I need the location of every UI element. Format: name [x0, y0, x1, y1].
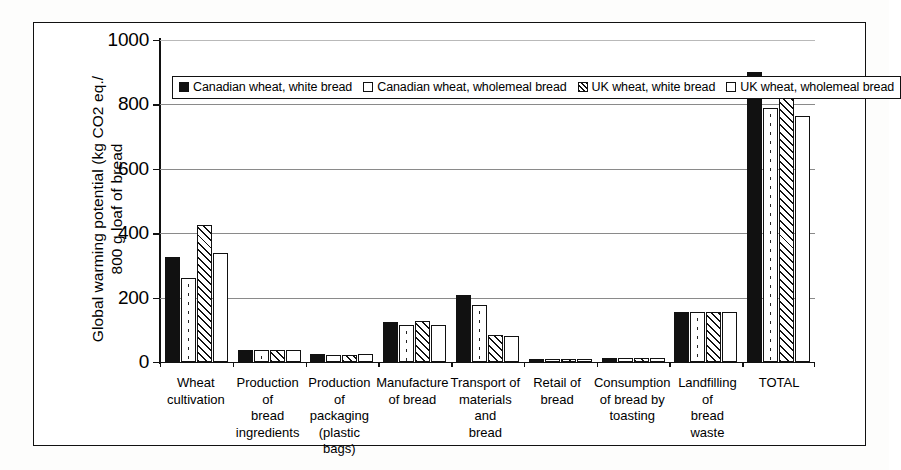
- bar[interactable]: [383, 322, 398, 362]
- x-axis-label: Wheatcultivation: [160, 375, 232, 458]
- x-axis-label-line: Transport of: [450, 375, 520, 392]
- bar[interactable]: [674, 312, 689, 362]
- x-tick-mark: [306, 362, 307, 367]
- bar[interactable]: [529, 359, 544, 362]
- y-tick-label-1000: 1000: [108, 29, 149, 51]
- x-axis-label: Landfilling ofbread waste: [672, 375, 744, 458]
- x-axis-labels: WheatcultivationProduction ofbreadingred…: [160, 375, 815, 458]
- x-axis-label-line: Retail of: [522, 375, 592, 392]
- bar[interactable]: [399, 325, 414, 362]
- bar[interactable]: [326, 355, 341, 362]
- x-axis-label: Manufactureof bread: [375, 375, 449, 458]
- bar[interactable]: [472, 305, 487, 362]
- x-axis-label-line: bread: [450, 425, 520, 442]
- bar[interactable]: [238, 350, 253, 362]
- x-axis-label: TOTAL: [743, 375, 815, 458]
- y-tick-label-0: 0: [139, 351, 149, 373]
- x-axis-label-line: Production of: [233, 375, 303, 408]
- bar[interactable]: [722, 312, 737, 362]
- x-axis-label-line: packaging: [304, 408, 374, 425]
- x-axis-label-line: Production of: [304, 375, 374, 408]
- bar[interactable]: [779, 82, 794, 362]
- x-axis-label-line: Wheat: [161, 375, 231, 392]
- y-tick-mark-0: [153, 362, 160, 363]
- x-axis-label-line: of bread: [376, 392, 448, 409]
- y-tick-label-200: 200: [118, 287, 149, 309]
- bar[interactable]: [618, 358, 633, 362]
- x-tick-mark: [233, 362, 234, 367]
- chart-frame: Global warming potential (kg CO2 eq./ 80…: [33, 22, 866, 446]
- bar[interactable]: [602, 358, 617, 362]
- y-tick-mark-200: [153, 298, 160, 299]
- x-axis-label-line: bread: [522, 392, 592, 409]
- legend-label: UK wheat, white bread: [592, 80, 716, 94]
- bar[interactable]: [213, 253, 228, 362]
- bar[interactable]: [197, 225, 212, 362]
- legend-item[interactable]: Canadian wheat, wholemeal bread: [363, 80, 566, 94]
- x-tick-mark: [378, 362, 379, 367]
- gridline-0: [160, 362, 815, 363]
- bar[interactable]: [763, 108, 778, 362]
- bar[interactable]: [270, 350, 285, 362]
- x-axis-label-line: (plastic bags): [304, 425, 374, 458]
- x-axis-label-line: bread: [233, 408, 303, 425]
- bar[interactable]: [634, 358, 649, 362]
- bar[interactable]: [690, 312, 705, 362]
- x-axis-label: Production ofbreadingredients: [232, 375, 304, 458]
- bar[interactable]: [415, 321, 430, 362]
- bar[interactable]: [706, 312, 721, 362]
- bar[interactable]: [431, 325, 446, 362]
- x-axis-label-line: ingredients: [233, 425, 303, 442]
- y-axis-title: Global warming potential (kg CO2 eq./ 80…: [80, 29, 134, 389]
- legend-label: UK wheat, wholemeal bread: [740, 80, 894, 94]
- bar[interactable]: [286, 350, 301, 362]
- x-axis-label-line: Manufacture: [376, 375, 448, 392]
- x-axis-label-line: TOTAL: [744, 375, 814, 392]
- legend-item[interactable]: UK wheat, wholemeal bread: [726, 80, 894, 94]
- y-tick-label-800: 800: [118, 93, 149, 115]
- x-axis-label-line: of bread by: [594, 392, 671, 409]
- legend-item[interactable]: Canadian wheat, white bread: [179, 80, 352, 94]
- legend-swatch-icon: [363, 82, 373, 92]
- bar[interactable]: [488, 335, 503, 362]
- bar[interactable]: [747, 72, 762, 362]
- y-tick-mark-400: [153, 233, 160, 234]
- x-axis-label-line: cultivation: [161, 392, 231, 409]
- x-tick-mark: [814, 362, 815, 367]
- x-axis-label-line: toasting: [594, 408, 671, 425]
- bar[interactable]: [342, 355, 357, 362]
- y-tick-mark-1000: [153, 40, 160, 41]
- bar[interactable]: [577, 359, 592, 362]
- bar[interactable]: [165, 257, 180, 362]
- bar[interactable]: [181, 278, 196, 362]
- y-tick-label-400: 400: [118, 222, 149, 244]
- x-tick-mark: [597, 362, 598, 367]
- x-tick-mark: [524, 362, 525, 367]
- x-tick-mark: [669, 362, 670, 367]
- bar[interactable]: [545, 359, 560, 362]
- x-axis-label: Transport ofmaterials andbread: [449, 375, 521, 458]
- bar[interactable]: [254, 350, 269, 362]
- legend-item[interactable]: UK wheat, white bread: [578, 80, 716, 94]
- bar[interactable]: [358, 354, 373, 362]
- x-axis-label-line: Landfilling of: [673, 375, 743, 408]
- x-axis-label: Consumptionof bread bytoasting: [593, 375, 672, 458]
- bar[interactable]: [650, 358, 665, 362]
- x-axis-label-line: materials and: [450, 392, 520, 425]
- x-tick-mark: [451, 362, 452, 367]
- bar[interactable]: [504, 336, 519, 362]
- bar[interactable]: [795, 116, 810, 362]
- bar[interactable]: [456, 295, 471, 362]
- bar[interactable]: [310, 354, 325, 362]
- x-axis-label-line: bread waste: [673, 408, 743, 441]
- x-tick-mark: [160, 362, 161, 367]
- x-tick-mark: [742, 362, 743, 367]
- legend-swatch-icon: [179, 82, 189, 92]
- bar[interactable]: [561, 359, 576, 362]
- legend-swatch-icon: [726, 82, 736, 92]
- legend-label: Canadian wheat, wholemeal bread: [377, 80, 566, 94]
- x-axis-label: Retail ofbread: [521, 375, 593, 458]
- x-axis-label-line: Consumption: [594, 375, 671, 392]
- y-tick-mark-800: [153, 104, 160, 105]
- y-tick-mark-600: [153, 169, 160, 170]
